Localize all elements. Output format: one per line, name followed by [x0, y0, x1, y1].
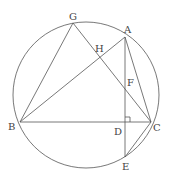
label-A: A: [123, 24, 132, 35]
right-angle-mark: [125, 117, 130, 122]
segment-GB: [20, 23, 73, 122]
label-H: H: [95, 43, 104, 54]
label-D: D: [114, 126, 122, 137]
label-F: F: [127, 77, 134, 88]
label-C: C: [153, 122, 161, 133]
label-B: B: [8, 121, 15, 132]
segment-GC: [73, 23, 151, 122]
segment-CE: [125, 122, 151, 157]
label-E: E: [122, 161, 129, 172]
geometry-diagram: A B C D E F G H: [0, 0, 172, 178]
segment-BA: [20, 37, 125, 122]
label-G: G: [69, 11, 77, 22]
